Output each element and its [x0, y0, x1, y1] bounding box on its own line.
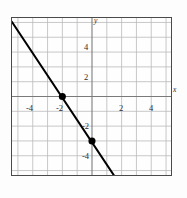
data-points: [12, 18, 171, 175]
graph-figure: -4 -2 2 4 4 2 -2 -4 y x: [0, 0, 187, 198]
y-tick-label-4: 4: [84, 43, 88, 52]
y-tick-label-2: 2: [84, 73, 88, 82]
x-tick-label-neg2: -2: [56, 104, 63, 113]
y-tick-label-neg2: -2: [82, 122, 89, 131]
y-tick-label-neg4: -4: [82, 152, 89, 161]
x-tick-label-neg4: -4: [26, 104, 33, 113]
data-point-a: [59, 93, 66, 100]
plot-frame: [11, 17, 172, 176]
data-point-b: [88, 137, 95, 144]
x-tick-label-4: 4: [149, 104, 153, 113]
y-axis-name: y: [94, 17, 97, 25]
x-axis-name: x: [173, 86, 176, 94]
x-tick-label-2: 2: [119, 104, 123, 113]
